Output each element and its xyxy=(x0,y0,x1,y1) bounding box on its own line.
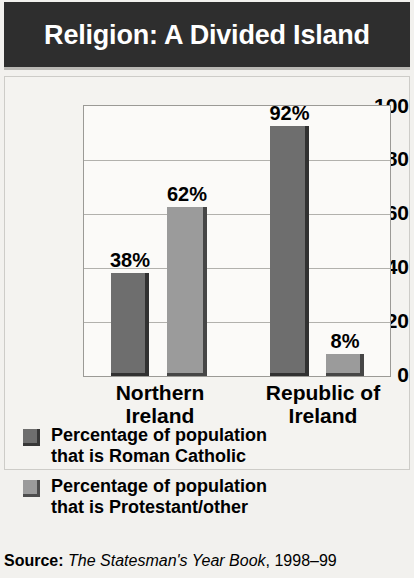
bar-face xyxy=(270,126,309,376)
bar-republic-of-ireland-protestant[interactable]: 8% xyxy=(326,354,364,376)
bar-value-label: 38% xyxy=(110,250,150,270)
legend-item-roman-catholic[interactable]: Percentage of population that is Roman C… xyxy=(23,425,393,467)
gridline-60 xyxy=(84,214,390,215)
source-note: Source: The Statesman's Year Book, 1998–… xyxy=(4,552,410,570)
page-title: Religion: A Divided Island xyxy=(16,20,398,50)
legend-item-label: Percentage of population that is Protest… xyxy=(51,476,267,518)
bar-republic-of-ireland-catholic[interactable]: 92% xyxy=(270,126,309,376)
bar-value-label: 62% xyxy=(167,184,207,204)
legend-label-line-2: that is Protestant/other xyxy=(51,497,248,517)
plot-area: 38% 62% 92% 8% xyxy=(83,105,391,377)
bar-northern-ireland-protestant[interactable]: 62% xyxy=(167,207,207,376)
legend-label-line-2: that is Roman Catholic xyxy=(51,446,246,466)
x-axis-label-line-1: Republic of xyxy=(253,381,393,404)
source-label: Source: xyxy=(4,552,64,569)
legend-item-protestant-other[interactable]: Percentage of population that is Protest… xyxy=(23,476,393,518)
bar-face xyxy=(326,354,364,376)
legend-label-line-1: Percentage of population xyxy=(51,476,267,496)
chart-figure: Religion: A Divided Island 100 80 60 40 … xyxy=(0,0,414,578)
legend-item-label: Percentage of population that is Roman C… xyxy=(51,425,267,467)
chart-legend: Percentage of population that is Roman C… xyxy=(23,425,393,527)
bar-value-label: 8% xyxy=(331,331,360,351)
x-axis-label-northern-ireland: Northern Ireland xyxy=(95,381,225,427)
chart-card: 100 80 60 40 20 0 38% 62% 92% xyxy=(4,76,410,470)
legend-swatch-icon xyxy=(23,429,40,446)
bar-face xyxy=(111,273,149,376)
source-year: , 1998–99 xyxy=(266,552,337,569)
source-work-title: The Statesman's Year Book xyxy=(68,552,266,569)
x-axis-label-republic-of-ireland: Republic of Ireland xyxy=(253,381,393,427)
bar-northern-ireland-catholic[interactable]: 38% xyxy=(111,273,149,376)
x-axis-label-line-2: Ireland xyxy=(95,404,225,427)
title-banner: Religion: A Divided Island xyxy=(4,2,410,70)
legend-swatch-icon xyxy=(23,480,40,497)
x-axis-label-line-2: Ireland xyxy=(253,404,393,427)
gridline-80 xyxy=(84,160,390,161)
x-axis-label-line-1: Northern xyxy=(95,381,225,404)
bar-value-label: 92% xyxy=(269,103,309,123)
legend-label-line-1: Percentage of population xyxy=(51,425,267,445)
bar-face xyxy=(167,207,207,376)
